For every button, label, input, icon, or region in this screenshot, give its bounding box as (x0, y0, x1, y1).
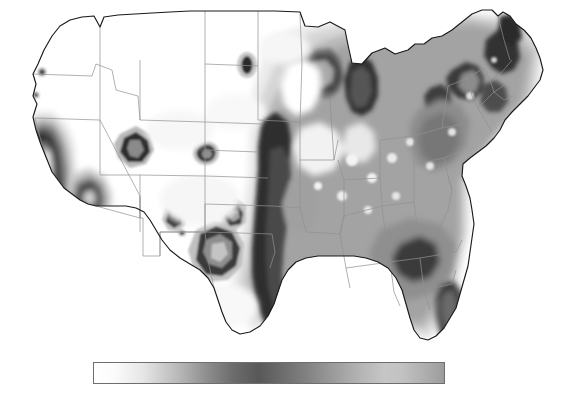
colorbar (93, 362, 445, 384)
contour-field (0, 0, 562, 348)
colorbar-gradient (93, 362, 445, 384)
figure-root (0, 0, 562, 397)
map-panel (0, 0, 562, 348)
us-contour-map (0, 0, 562, 348)
